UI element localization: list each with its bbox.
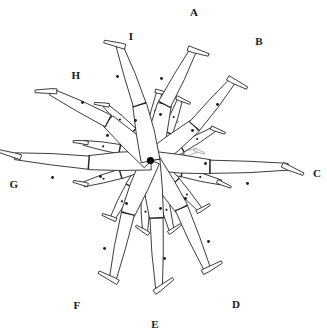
center-of-mass-dot-shank-I <box>116 75 119 78</box>
center-of-mass-dot-thigh-F <box>125 202 128 205</box>
shank-segment-E <box>150 218 163 288</box>
foot-t2 <box>194 148 205 154</box>
leg-label-A: A <box>190 6 198 18</box>
center-of-mass-dot-shank-H <box>81 101 84 104</box>
shank-segment-B <box>190 78 236 130</box>
shank-segment-F <box>109 212 134 281</box>
shank-segment-s11 <box>84 141 121 154</box>
shank-segment-C <box>210 160 288 173</box>
foot-C <box>282 163 304 176</box>
leg-label-F: F <box>74 299 81 311</box>
center-of-mass-dot-shank-s6 <box>186 194 188 196</box>
center-of-mass-dot-shank-s10 <box>103 178 105 180</box>
center-of-mass-dot-thigh-C <box>204 162 207 165</box>
center-of-mass-dot-shank-s4 <box>196 138 198 140</box>
foot-s11 <box>73 140 88 144</box>
center-of-mass-dot-shank-C <box>246 182 249 185</box>
foot-I <box>104 40 126 49</box>
center-of-mass-dot-shank-s3 <box>173 116 175 118</box>
foot-G <box>0 150 21 160</box>
hip-hub-layer <box>147 157 154 164</box>
center-of-mass-dot-shank-A <box>160 77 163 80</box>
leg-label-B: B <box>255 35 263 47</box>
leg-label-I: I <box>129 30 133 42</box>
center-of-mass-dot-shank-F <box>103 247 106 250</box>
center-of-mass-dot-shank-B <box>216 103 219 106</box>
shank-segment-D <box>175 206 210 271</box>
shank-segment-H <box>50 89 112 127</box>
leg-label-H: H <box>72 69 81 81</box>
center-of-mass-dot-shank-s8 <box>144 211 146 213</box>
shank-segment-G <box>15 153 90 169</box>
leg-label-G: G <box>10 178 19 190</box>
figure-canvas: ABCDEFGHI <box>0 0 327 334</box>
foot-s1 <box>94 102 109 107</box>
center-of-mass-dot-shank-s11 <box>102 145 104 147</box>
leg-posture-radial-figure: ABCDEFGHI <box>0 0 327 334</box>
foot-H <box>35 89 57 94</box>
center-of-mass-dot-shank-G <box>51 176 54 179</box>
foot-s5 <box>217 180 232 188</box>
center-of-mass-dot-thigh-E <box>159 207 162 210</box>
shank-segment-I <box>116 45 146 107</box>
shank-segment-s10 <box>83 169 122 186</box>
center-of-mass-dot-shank-s5 <box>199 176 201 178</box>
center-of-mass-dot-thigh-B <box>191 129 194 132</box>
center-of-mass-dot-thigh-I <box>134 119 137 122</box>
center-of-mass-dot-thigh-H <box>106 134 109 137</box>
center-of-mass-dot-shank-D <box>207 240 210 243</box>
center-of-mass-dot-shank-s7 <box>165 209 167 211</box>
leg-label-C: C <box>313 167 321 179</box>
labeled-legs-layer <box>0 40 304 294</box>
center-of-mass-dot-shank-E <box>163 257 166 260</box>
leg-label-D: D <box>232 298 240 310</box>
center-of-mass-dot-thigh-D <box>184 197 187 200</box>
center-of-mass-dot-thigh-A <box>159 113 162 116</box>
leg-label-E: E <box>151 318 159 330</box>
hip-joint-hub <box>147 157 154 164</box>
center-of-mass-dot-thigh-G <box>99 175 102 178</box>
center-of-mass-dot-shank-s9 <box>121 200 123 202</box>
